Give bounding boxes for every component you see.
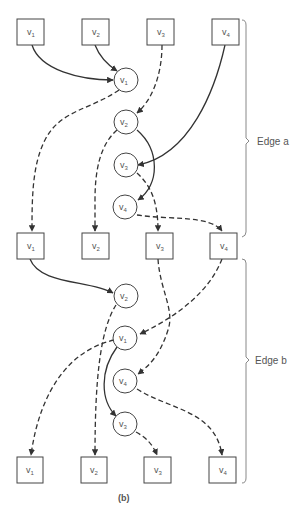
edge-cb4-b4 xyxy=(137,389,222,455)
edge-cb1-b1 xyxy=(31,340,114,455)
square-node-b2: v2 xyxy=(81,457,107,483)
square-node-m1: v1 xyxy=(17,233,44,259)
circle-node-cb1: v1 xyxy=(113,326,137,350)
brace-stage-a xyxy=(242,20,249,237)
square-node-m2: v2 xyxy=(82,233,109,259)
square-node-b1: v1 xyxy=(17,457,43,483)
diagram-canvas: v1 v2 v3 v4 v1 v2 v3 v4 v1 v2 v3 v4 v1 xyxy=(0,0,301,522)
stage-label-edge-b: Edge b xyxy=(255,355,287,366)
square-row-middle: v1 v2 v3 v4 xyxy=(17,233,237,259)
edge-ca4-m4 xyxy=(137,215,222,231)
circle-node-cb3: v3 xyxy=(113,412,137,436)
edge-m4-cb1 xyxy=(140,259,222,334)
square-node-t2: v2 xyxy=(82,19,109,45)
edge-t3-ca2 xyxy=(137,45,162,113)
brace-stage-b xyxy=(242,259,249,483)
square-node-m3: v3 xyxy=(146,233,173,259)
circle-group-stage-a: v1 v2 v3 v4 xyxy=(113,68,138,219)
circle-node-ca4: v4 xyxy=(113,195,137,219)
edge-m3-cb4 xyxy=(138,259,170,374)
circle-node-ca3: v3 xyxy=(114,153,138,177)
circle-node-cb2: v2 xyxy=(114,284,138,308)
edge-cb3-b3 xyxy=(136,432,157,455)
edge-m1-cb2 xyxy=(30,259,113,293)
edge-t2-ca1 xyxy=(95,45,117,71)
square-node-b4: v4 xyxy=(209,457,236,483)
square-node-t1: v1 xyxy=(17,19,44,45)
circle-node-ca2: v2 xyxy=(114,110,138,134)
edge-ca2-m2 xyxy=(95,130,117,231)
edge-t1-ca1 xyxy=(32,45,113,80)
circle-node-cb4: v4 xyxy=(113,369,137,393)
edge-t4-ca3 xyxy=(138,45,225,165)
square-node-t4: v4 xyxy=(212,19,239,45)
square-row-top: v1 v2 v3 v4 xyxy=(17,19,239,45)
edge-ca1-m1 xyxy=(32,90,119,231)
edge-ca3-m3 xyxy=(137,173,158,231)
square-node-m4: v4 xyxy=(210,233,237,259)
circle-group-stage-b: v2 v1 v4 v3 xyxy=(113,284,138,436)
square-node-t3: v3 xyxy=(147,19,174,45)
square-row-bottom: v1 v2 v3 v4 xyxy=(17,457,236,483)
figure-caption: (b) xyxy=(118,493,130,503)
stage-label-edge-a: Edge a xyxy=(257,136,289,147)
square-node-b3: v3 xyxy=(144,457,171,483)
circle-node-ca1: v1 xyxy=(114,68,138,92)
